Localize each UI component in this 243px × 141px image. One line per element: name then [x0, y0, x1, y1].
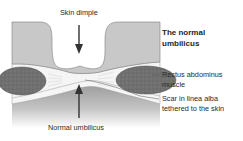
scar-label-line1: Scar in linea alba [162, 94, 218, 103]
diagram-title-line1: The normal [162, 28, 205, 38]
skin-dimple-arrow-icon [75, 25, 83, 54]
left-rectus-muscle [0, 67, 46, 95]
skin-dimple-label: Skin dimple [60, 8, 98, 17]
umbilicus-diagram: Skin dimple The normal umbilicus Rectus … [0, 0, 243, 141]
rectus-label-line1: Rectus abdominus [162, 70, 222, 79]
normal-umbilicus-label: Normal umbilicus [48, 123, 104, 132]
rectus-label-line2: muscle [162, 80, 185, 89]
scar-label-line2: tethered to the skin [162, 104, 224, 113]
diagram-title-line2: umbilicus [162, 39, 199, 49]
